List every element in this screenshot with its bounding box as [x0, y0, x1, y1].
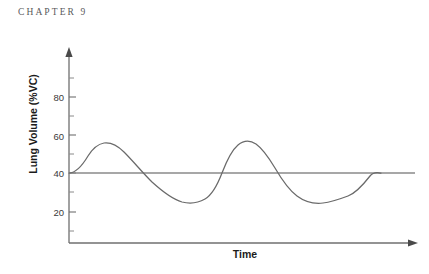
lung-volume-curve: [69, 141, 381, 203]
figure-page: CHAPTER 9 Lung Volume (%VC) Time 80 60 4…: [0, 0, 429, 274]
y-axis-group: [65, 47, 76, 243]
chart-canvas: [0, 0, 429, 274]
y-axis-arrowhead: [65, 47, 72, 57]
x-axis-group: [69, 239, 418, 246]
x-axis-arrowhead: [408, 239, 418, 246]
lung-volume-chart: Lung Volume (%VC) Time 80 60 40 20: [0, 0, 429, 274]
